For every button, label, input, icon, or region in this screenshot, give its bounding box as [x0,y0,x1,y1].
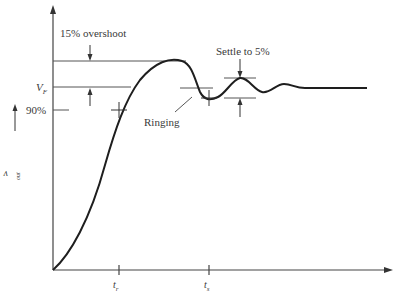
ninety-percent-label: 90% [26,105,46,116]
y-axis-arrow-icon [50,5,56,14]
response-curve [53,60,367,270]
overshoot-label: 15% overshoot [60,28,126,39]
settle-label: Settle to 5% [216,46,270,57]
tr-label: tr [113,280,119,293]
ringing-label: Ringing [144,117,179,128]
y-axis-label: vout [8,140,28,180]
y-label-arrow-icon [10,104,20,132]
final-value-label: VF [36,82,47,96]
x-axis-arrow-icon [384,267,393,273]
ringing-leader-line [175,97,192,112]
ts-label: ts [204,280,210,293]
